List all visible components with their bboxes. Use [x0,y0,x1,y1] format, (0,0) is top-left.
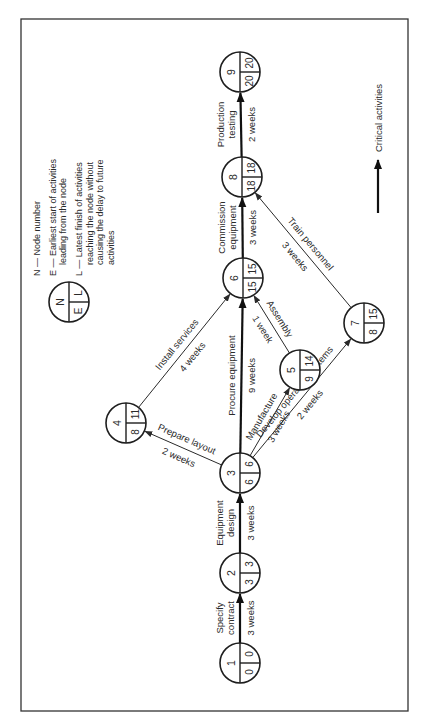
activity-label-5-6: Assembly1 week [250,298,295,345]
node-number: 8 [227,174,239,180]
node-earliest-start: 9 [304,376,315,382]
node-latest-finish: 11 [130,408,141,419]
activity-name: contract [225,601,236,635]
node-number: 2 [225,570,237,576]
activity-label-4-6: Install services4 weeks [153,316,208,373]
activity-label-3-4: Prepare layout2 weeks [157,421,218,469]
node-latest-finish: 15 [247,263,258,275]
legend-node-key: NEL [49,282,89,322]
node-earliest-start: 15 [247,281,258,293]
node-2: 233 [220,553,260,593]
node-earliest-start: 0 [244,669,255,675]
activity-duration: 2 weeks [161,445,198,469]
activity-arrow-4-6 [139,294,230,407]
node-latest-finish: 15 [368,308,379,320]
network-diagram: Specifycontract3 weeksEquipmentdesign3 w… [0,0,421,724]
activity-name: Procure equipment [226,335,237,416]
legend-entry-l: activities [106,230,116,265]
activity-duration: 3 weeks [245,505,256,540]
activity-label-8-9: Productiontesting2 weeks [215,102,257,147]
node-9: 92020 [220,52,260,92]
activity-name: design [225,509,236,537]
legend: NEL N — Node numberE — Earliest start of… [32,84,384,322]
critical-activities-label: Critical activities [373,84,384,152]
node-earliest-start: 18 [246,180,257,192]
node-number: 3 [225,470,237,476]
activity-name: equipment [227,205,238,250]
activity-label-7-8: Train personnel3 weeks [280,215,336,274]
activity-label-6-8: Commissionequipment3 weeks [216,201,258,253]
node-earliest-start: 20 [244,75,255,87]
activity-name: testing [226,111,237,139]
activity-duration: 2 weeks [246,107,257,142]
node-1: 100 [220,643,260,683]
legend-entry-n: N — Node number [32,201,42,276]
activity-arrow-6-8 [242,198,243,258]
node-number: 6 [228,275,240,281]
activity-duration: 3 weeks [247,210,258,245]
activity-name: Commission [216,201,227,253]
node-latest-finish: 14 [304,355,315,367]
node-7: 7815 [344,303,384,343]
diagram-canvas: Specifycontract3 weeksEquipmentdesign3 w… [0,0,421,724]
node-6: 61515 [223,258,263,298]
legend-entry-l: L — Latest finish of activities [74,162,84,276]
node-number: 4 [111,420,123,426]
legend-critical-activities: Critical activities [373,84,384,213]
node-latest-finish: L [73,290,84,296]
legend-entry-l: reaching the node without [85,161,95,265]
activity-duration: 9 weeks [246,358,257,393]
node-number: N [54,298,66,306]
node-latest-finish: 18 [246,162,257,174]
activity-arrow-3-6 [240,299,242,453]
node-number: 9 [225,69,237,75]
node-earliest-start: E [73,307,84,314]
activity-name: Specify [214,602,225,633]
node-8: 81818 [222,157,262,197]
node-latest-finish: 6 [244,461,255,467]
node-latest-finish: 0 [244,651,255,657]
node-number: 5 [285,367,297,373]
legend-node-symbol: NEL [49,282,89,322]
event-nodes: 100233366481159146151578158181892020 [106,52,384,683]
node-number: 7 [349,320,361,326]
legend-entry-e: leading from the node [58,178,68,265]
legend-entry-e: E — Earliest start of activities [48,158,58,276]
activity-duration: 3 weeks [245,600,256,635]
activity-name: Production [215,102,226,147]
activity-arrow-7-8 [255,193,351,308]
activity-arrow-8-9 [240,93,241,157]
activity-label-1-2: Specifycontract3 weeks [214,600,256,635]
node-earliest-start: 8 [368,329,379,335]
node-4: 4811 [106,403,146,443]
legend-entry-l: causing the delay to future [95,159,105,265]
node-earliest-start: 3 [244,579,255,585]
activity-duration: 1 week [250,314,275,346]
legend-entries: N — Node numberE — Earliest start of act… [32,158,116,276]
node-3: 366 [220,453,260,493]
node-latest-finish: 3 [244,561,255,567]
node-earliest-start: 6 [244,479,255,485]
node-5: 5914 [280,350,320,390]
node-latest-finish: 20 [244,57,255,69]
activity-name: Equipment [214,500,225,546]
activity-label-2-3: Equipmentdesign3 weeks [214,500,256,546]
node-number: 1 [225,660,237,666]
node-earliest-start: 8 [130,429,141,435]
